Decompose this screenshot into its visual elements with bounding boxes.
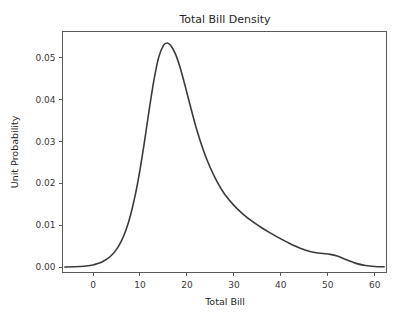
y-tick-label: 0.05 xyxy=(35,53,55,63)
y-tick-label: 0.01 xyxy=(35,220,55,230)
x-tick-label: 10 xyxy=(134,280,146,290)
y-tick-label: 0.04 xyxy=(35,95,55,105)
x-tick-label: 50 xyxy=(322,280,334,290)
y-tick-label: 0.02 xyxy=(35,178,55,188)
x-axis-label: Total Bill xyxy=(204,296,245,307)
chart-title: Total Bill Density xyxy=(178,13,271,26)
x-tick-label: 40 xyxy=(275,280,287,290)
y-axis-label: Unit Probability xyxy=(9,115,20,188)
x-tick-label: 20 xyxy=(181,280,193,290)
density-chart-svg: Total Bill Density 0102030405060 0.000.0… xyxy=(0,0,410,318)
x-tick-label: 60 xyxy=(369,280,381,290)
y-tick-label: 0.03 xyxy=(35,137,55,147)
x-tick-label: 30 xyxy=(228,280,240,290)
figure-background xyxy=(0,0,410,318)
y-tick-label: 0.00 xyxy=(35,262,55,272)
x-tick-label: 0 xyxy=(90,280,96,290)
chart-figure: Total Bill Density 0102030405060 0.000.0… xyxy=(0,0,410,318)
